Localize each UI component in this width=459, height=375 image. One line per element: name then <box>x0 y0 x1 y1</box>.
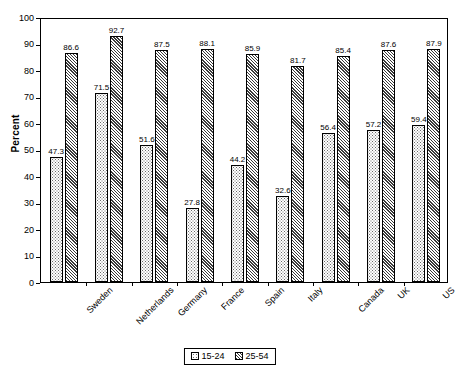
bar-value-label: 56.4 <box>320 124 336 132</box>
bar-group: 59.487.9 <box>404 19 449 282</box>
bar-group: 57.287.6 <box>358 19 403 282</box>
bar-value-label: 87.6 <box>381 41 397 49</box>
bar-value-label: 27.8 <box>184 199 200 207</box>
bar-value-label: 86.6 <box>63 44 79 52</box>
bar-value-label: 51.6 <box>139 136 155 144</box>
bar: 87.9 <box>427 49 440 282</box>
bar-group: 56.485.4 <box>313 19 358 282</box>
bar-value-label: 59.4 <box>411 116 427 124</box>
x-tick-label: Sweden <box>84 285 114 315</box>
bar: 88.1 <box>201 49 214 282</box>
bar-value-label: 44.2 <box>230 156 246 164</box>
legend-swatch <box>190 352 198 360</box>
bar: 32.6 <box>276 196 289 282</box>
x-tick-label: US <box>441 285 457 301</box>
bar-group: 32.681.7 <box>268 19 313 282</box>
legend-swatch <box>235 352 243 360</box>
y-tick-label: 80 <box>24 67 34 76</box>
x-tick-label: Netherlands <box>134 285 175 326</box>
bar: 51.6 <box>140 145 153 282</box>
bar: 71.5 <box>95 93 108 282</box>
bar: 57.2 <box>367 130 380 282</box>
legend-label: 25-54 <box>246 351 269 361</box>
y-tick-mark <box>36 283 40 284</box>
x-tick-label: UK <box>396 285 412 301</box>
bar-group: 27.888.1 <box>177 19 222 282</box>
legend-item: 25-54 <box>235 351 269 361</box>
bar-value-label: 71.5 <box>94 84 110 92</box>
bar-value-label: 32.6 <box>275 187 291 195</box>
y-tick-label: 20 <box>24 226 34 235</box>
bar: 92.7 <box>110 36 123 282</box>
bar-value-label: 81.7 <box>290 57 306 65</box>
bar-group: 44.285.9 <box>222 19 267 282</box>
y-tick-label: 0 <box>29 279 34 288</box>
bar: 27.8 <box>186 208 199 282</box>
plot-area: 47.386.671.592.751.687.527.888.144.285.9… <box>40 18 448 283</box>
x-tick-label: France <box>219 285 246 312</box>
bar-value-label: 87.5 <box>154 41 170 49</box>
y-axis-ticks: 1009080706050403020100 <box>0 0 38 375</box>
bar: 56.4 <box>322 133 335 282</box>
y-tick-label: 60 <box>24 120 34 129</box>
y-tick-label: 50 <box>24 146 34 155</box>
y-tick-label: 40 <box>24 173 34 182</box>
y-tick-label: 30 <box>24 199 34 208</box>
bar-value-label: 87.9 <box>426 40 442 48</box>
bar-group: 47.386.6 <box>41 19 86 282</box>
legend-item: 15-24 <box>190 351 224 361</box>
bar: 87.5 <box>155 50 168 282</box>
bar-value-label: 85.4 <box>335 47 351 55</box>
y-tick-label: 100 <box>19 14 34 23</box>
x-tick-label: Spain <box>263 285 286 308</box>
bar-group: 51.687.5 <box>132 19 177 282</box>
bar: 44.2 <box>231 165 244 282</box>
y-tick-label: 70 <box>24 93 34 102</box>
bar-value-label: 57.2 <box>366 121 382 129</box>
plot-inner: 47.386.671.592.751.687.527.888.144.285.9… <box>41 19 447 282</box>
legend-label: 15-24 <box>201 351 224 361</box>
bar: 85.4 <box>337 56 350 282</box>
bar-group: 71.592.7 <box>86 19 131 282</box>
bar-value-label: 85.9 <box>245 45 261 53</box>
bar: 86.6 <box>65 53 78 282</box>
bar: 85.9 <box>246 54 259 282</box>
bar: 59.4 <box>412 125 425 282</box>
y-tick-label: 10 <box>24 252 34 261</box>
bar: 81.7 <box>291 66 304 283</box>
x-tick-label: Canada <box>356 285 385 314</box>
bar: 87.6 <box>382 50 395 282</box>
bar-value-label: 92.7 <box>109 27 125 35</box>
bar-value-label: 88.1 <box>199 40 215 48</box>
chart-legend: 15-2425-54 <box>183 348 275 365</box>
bar-value-label: 47.3 <box>48 148 64 156</box>
bar: 47.3 <box>50 157 63 282</box>
x-axis-labels: SwedenNetherlandsGermanyFranceSpainItaly… <box>40 285 448 345</box>
x-tick-label: Germany <box>176 285 209 318</box>
y-tick-label: 90 <box>24 40 34 49</box>
x-tick-label: Italy <box>306 285 325 304</box>
bar-chart: Percent 1009080706050403020100 47.386.67… <box>0 0 459 375</box>
